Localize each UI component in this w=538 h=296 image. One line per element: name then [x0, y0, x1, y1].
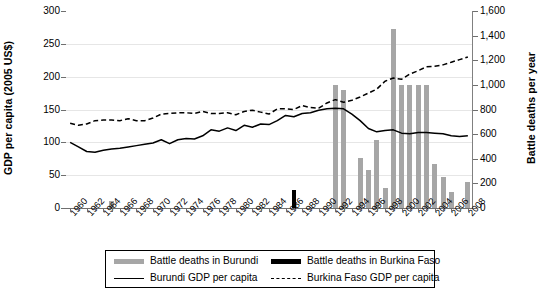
x-tick — [161, 208, 162, 212]
x-tick — [402, 208, 403, 212]
x-tick — [302, 208, 303, 212]
x-tick — [410, 208, 411, 212]
y-tick-right — [473, 85, 478, 86]
y-tick-right — [473, 60, 478, 61]
solid-line-swatch-icon — [114, 273, 144, 283]
grey-bar-swatch-icon — [114, 259, 144, 264]
x-tick — [87, 208, 88, 212]
x-tick — [269, 208, 270, 212]
x-tick — [136, 208, 137, 212]
x-tick — [435, 208, 436, 212]
legend-item-burkina-faso-gdp: Burkina Faso GDP per capita — [269, 269, 434, 286]
x-tick — [294, 208, 295, 212]
x-axis-labels: 1960196219641966196819701972197419761978… — [0, 0, 538, 260]
y-tick-left — [61, 208, 66, 209]
x-tick — [368, 208, 369, 212]
x-tick — [145, 208, 146, 212]
y-tick-right — [473, 208, 478, 209]
x-tick — [78, 208, 79, 212]
legend-item-burundi-gdp: Burundi GDP per capita — [106, 269, 269, 286]
x-tick — [460, 208, 461, 212]
x-tick — [360, 208, 361, 212]
legend-label: Burundi GDP per capita — [150, 272, 257, 283]
x-tick — [327, 208, 328, 212]
y-tick-left — [61, 11, 66, 12]
x-tick — [244, 208, 245, 212]
y-tick-left — [61, 77, 66, 78]
y-tick-left — [61, 142, 66, 143]
x-tick — [377, 208, 378, 212]
x-tick — [385, 208, 386, 212]
x-tick — [252, 208, 253, 212]
y-tick-right — [473, 183, 478, 184]
x-tick — [261, 208, 262, 212]
x-tick — [186, 208, 187, 212]
x-tick — [443, 208, 444, 212]
y-tick-right — [473, 159, 478, 160]
y-tick-right — [473, 134, 478, 135]
chart-container: GDP per capita (2005 US$) Battle deaths … — [0, 0, 538, 296]
y-tick-right — [473, 110, 478, 111]
x-tick — [219, 208, 220, 212]
x-tick — [170, 208, 171, 212]
chart-legend: Battle deaths in Burundi Battle deaths i… — [105, 250, 435, 288]
x-tick — [418, 208, 419, 212]
x-tick — [95, 208, 96, 212]
x-tick — [286, 208, 287, 212]
x-tick — [70, 208, 71, 212]
x-tick — [103, 208, 104, 212]
x-tick — [120, 208, 121, 212]
x-tick — [153, 208, 154, 212]
legend-item-battle-deaths-burkina-faso: Battle deaths in Burkina Faso — [269, 252, 434, 269]
x-tick — [277, 208, 278, 212]
y-tick-left — [61, 44, 66, 45]
legend-item-battle-deaths-burundi: Battle deaths in Burundi — [106, 252, 269, 269]
y-tick-left — [61, 175, 66, 176]
x-tick — [352, 208, 353, 212]
x-tick — [203, 208, 204, 212]
y-tick-right — [473, 11, 478, 12]
x-tick — [228, 208, 229, 212]
x-tick — [112, 208, 113, 212]
x-tick — [319, 208, 320, 212]
legend-label: Battle deaths in Burkina Faso — [307, 255, 440, 266]
x-tick — [335, 208, 336, 212]
legend-label: Battle deaths in Burundi — [150, 255, 258, 266]
x-tick — [178, 208, 179, 212]
y-tick-left — [61, 110, 66, 111]
x-tick — [236, 208, 237, 212]
x-tick — [468, 208, 469, 212]
dashed-line-swatch-icon — [271, 273, 301, 283]
legend-label: Burkina Faso GDP per capita — [307, 272, 439, 283]
x-tick — [128, 208, 129, 212]
x-tick — [426, 208, 427, 212]
x-tick — [393, 208, 394, 212]
x-tick — [344, 208, 345, 212]
x-tick — [194, 208, 195, 212]
x-tick — [211, 208, 212, 212]
black-bar-swatch-icon — [271, 259, 301, 264]
x-tick — [451, 208, 452, 212]
x-tick — [310, 208, 311, 212]
y-tick-right — [473, 36, 478, 37]
